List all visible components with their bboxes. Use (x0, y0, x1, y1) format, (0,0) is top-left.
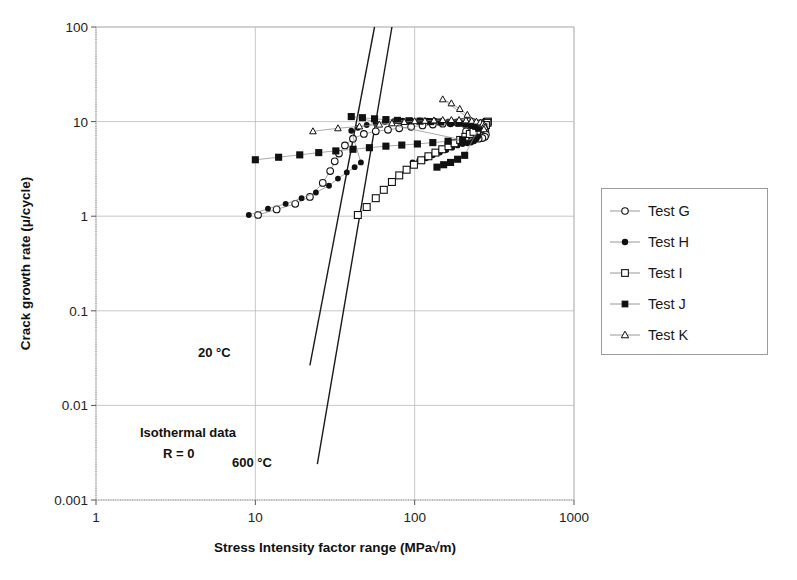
y-axis-tick-label: 0.001 (30, 493, 88, 508)
data-point-open-circle (327, 168, 334, 175)
annotation-isothermal-data: Isothermal data (140, 425, 236, 440)
data-point-filled-circle (299, 195, 305, 201)
y-axis-tick-label: 10 (30, 114, 88, 129)
data-point-filled-square (447, 159, 454, 166)
data-point-filled-square (622, 301, 629, 308)
data-point-filled-circle (364, 122, 370, 128)
annotation-r-ratio: R = 0 (163, 446, 194, 461)
legend-marker-open-circle-icon (602, 201, 648, 221)
legend-item-test-k[interactable]: Test K (602, 325, 769, 345)
x-axis-tick-label: 1 (92, 510, 100, 525)
data-point-filled-circle (358, 160, 364, 166)
data-point-filled-circle (283, 201, 289, 207)
data-point-filled-square (332, 147, 339, 154)
data-point-filled-square (461, 152, 468, 159)
legend-marker-filled-circle-icon (602, 232, 648, 252)
legend-item-label: Test J (648, 296, 686, 312)
data-point-open-triangle (457, 105, 464, 111)
data-point-open-square (363, 204, 370, 211)
figure-container: 1001010.10.010.001 1101001000 Stress Int… (0, 0, 797, 580)
legend-item-test-i[interactable]: Test I (602, 263, 769, 283)
data-point-filled-square (398, 142, 405, 149)
annotation-600c-line-label: 600 °C (232, 455, 272, 470)
x-axis-tick-label: 100 (403, 510, 426, 525)
data-point-open-square (622, 270, 629, 277)
data-point-filled-square (359, 114, 366, 121)
data-point-filled-circle (246, 212, 252, 218)
data-point-open-square (372, 195, 379, 202)
data-point-open-square (403, 166, 410, 173)
legend-key-glyph (610, 331, 640, 338)
data-point-filled-square (414, 140, 421, 147)
data-point-open-circle (342, 142, 349, 149)
data-point-filled-square (459, 136, 466, 143)
y-axis-tick-label: 1 (30, 209, 88, 224)
legend-marker-filled-square-icon (602, 294, 648, 314)
reference-line (317, 27, 392, 464)
data-point-open-circle (361, 131, 368, 138)
legend-item-test-j[interactable]: Test J (602, 294, 769, 314)
data-point-filled-circle (622, 239, 628, 245)
x-axis-tick-label: 1000 (559, 510, 589, 525)
data-point-filled-circle (265, 206, 271, 212)
legend-key-glyph (610, 208, 640, 214)
data-point-filled-square (315, 149, 322, 156)
annotation-20c-line-label: 20 °C (198, 345, 231, 360)
y-axis-title: Crack growth rate (μ/cycle) (18, 27, 33, 500)
legend-marker-open-square-icon (602, 263, 648, 283)
data-point-filled-square (444, 138, 451, 145)
data-point-filled-circle (335, 176, 341, 182)
data-point-filled-square (366, 144, 373, 151)
legend-key-glyph (610, 239, 640, 245)
data-point-filled-square (349, 146, 356, 153)
data-point-filled-square (454, 156, 461, 163)
data-point-open-triangle (439, 96, 446, 102)
data-point-open-square (388, 179, 395, 186)
data-point-open-square (432, 149, 439, 156)
x-axis-title: Stress Intensity factor range (MPa√m) (96, 540, 574, 555)
x-axis-tick-label: 10 (248, 510, 263, 525)
legend-item-label: Test G (648, 203, 690, 219)
legend-key-glyph (610, 301, 640, 308)
data-point-filled-square (371, 115, 378, 122)
data-point-open-triangle (464, 111, 471, 117)
data-point-filled-square (429, 139, 436, 146)
data-point-filled-square (382, 116, 389, 123)
data-point-open-square (396, 172, 403, 179)
data-point-open-square (411, 161, 418, 168)
legend-item-test-g[interactable]: Test G (602, 201, 769, 221)
data-point-open-square (380, 186, 387, 193)
legend-key-glyph (610, 270, 640, 277)
data-point-filled-circle (344, 170, 350, 176)
data-point-filled-square (296, 151, 303, 158)
legend-marker-open-triangle-icon (602, 325, 648, 345)
reference-lines (310, 27, 392, 464)
data-point-filled-circle (326, 183, 332, 189)
data-point-filled-square (348, 113, 355, 120)
data-point-filled-circle (313, 190, 319, 196)
legend-item-label: Test I (648, 265, 683, 281)
data-point-filled-square (275, 154, 282, 161)
data-point-filled-square (382, 143, 389, 150)
series-test-g (255, 118, 490, 218)
legend-item-test-h[interactable]: Test H (602, 232, 769, 252)
data-point-filled-circle (352, 164, 358, 170)
data-point-open-square (354, 212, 361, 219)
chart-legend: Test GTest HTest ITest JTest K (601, 188, 768, 355)
y-axis-tick-label: 100 (30, 20, 88, 35)
data-point-filled-square (252, 156, 259, 163)
legend-item-label: Test H (648, 234, 689, 250)
data-point-open-circle (319, 180, 326, 187)
data-point-open-square (418, 157, 425, 164)
data-point-open-triangle (621, 331, 628, 338)
data-point-filled-circle (348, 128, 354, 134)
data-point-open-triangle (448, 100, 455, 106)
data-point-open-circle (622, 208, 628, 214)
data-point-filled-square (440, 161, 447, 168)
data-point-filled-square (433, 164, 440, 171)
data-point-open-square (425, 153, 432, 160)
legend-item-label: Test K (648, 327, 688, 343)
data-point-open-circle (385, 126, 392, 133)
data-point-open-circle (372, 128, 379, 135)
y-axis-tick-label: 0.1 (30, 303, 88, 318)
